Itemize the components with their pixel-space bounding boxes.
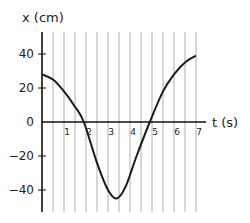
x-axis-ticks: 1234567	[64, 127, 202, 137]
x-tick-label: 7	[196, 127, 202, 137]
x-axis-title: t (s)	[212, 115, 238, 130]
x-tick-label: 6	[174, 127, 180, 137]
y-axis-title: x (cm)	[22, 10, 64, 25]
x-tick-label: 5	[152, 127, 158, 137]
y-tick-label: 0	[26, 115, 34, 129]
y-tick-label: −40	[9, 183, 34, 197]
x-tick-label: 1	[64, 127, 70, 137]
y-axis-ticks: 40200−20−40	[9, 47, 46, 197]
x-tick-label: 4	[130, 127, 136, 137]
y-tick-label: 40	[19, 47, 34, 61]
chart-canvas: 40200−20−40 1234567 x (cm) t (s)	[0, 0, 250, 223]
y-tick-label: −20	[9, 149, 34, 163]
x-tick-label: 2	[86, 127, 92, 137]
y-tick-label: 20	[19, 81, 34, 95]
axes	[42, 32, 206, 212]
x-tick-label: 3	[108, 127, 114, 137]
